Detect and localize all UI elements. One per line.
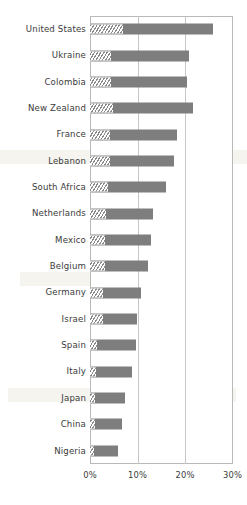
x-tick-label: 20% [176,470,195,480]
category-label: South Africa [0,183,86,192]
horizontal-bar-chart: United StatesUkraineColombiaNew ZealandF… [0,0,247,505]
bar-hatched-segment [90,208,106,219]
category-label: Ukraine [0,51,86,60]
bar-hatched-segment [90,287,103,298]
bar-hatched-segment [90,261,105,272]
bar-row: France [0,121,247,147]
bar-row: Spain [0,332,247,358]
bar-row: Ukraine [0,42,247,68]
bar-hatched-segment [90,129,110,140]
bar-hatched-segment [90,393,95,404]
category-label: Israel [0,315,86,324]
category-label: Germany [0,288,86,297]
bar-row: Lebanon [0,148,247,174]
bar-solid-segment [90,366,132,377]
bar-hatched-segment [90,76,111,87]
x-tick-label: 10% [128,470,147,480]
category-label: Japan [0,394,86,403]
x-axis: 0%10%20%30% [0,470,247,488]
bar-solid-segment [90,445,118,456]
bar-hatched-segment [90,314,103,325]
bar-row: Japan [0,385,247,411]
bar-row: Colombia [0,69,247,95]
category-label: Colombia [0,78,86,87]
bar-hatched-segment [90,103,113,114]
bar-solid-segment [90,393,125,404]
category-label: Belgium [0,262,86,271]
category-label: Lebanon [0,157,86,166]
bar-row: Nigeria [0,438,247,464]
bar-row: Italy [0,359,247,385]
bar-row: Belgium [0,253,247,279]
bar-hatched-segment [90,155,110,166]
category-label: Italy [0,367,86,376]
x-tick-label: 30% [223,470,242,480]
bar-hatched-segment [90,366,96,377]
category-label: Netherlands [0,209,86,218]
category-label: Spain [0,341,86,350]
bar-row: China [0,411,247,437]
x-tick-label: 0% [83,470,97,480]
bar-row: Israel [0,306,247,332]
category-label: United States [0,25,86,34]
category-label: New Zealand [0,104,86,113]
category-label: Mexico [0,236,86,245]
bar-rows-group: United StatesUkraineColombiaNew ZealandF… [0,16,247,464]
category-label: Nigeria [0,447,86,456]
bar-hatched-segment [90,419,95,430]
bar-row: Netherlands [0,200,247,226]
bar-row: Germany [0,280,247,306]
bar-hatched-segment [90,24,123,35]
bar-row: South Africa [0,174,247,200]
bar-hatched-segment [90,182,108,193]
bar-row: United States [0,16,247,42]
bar-hatched-segment [90,445,94,456]
bar-row: New Zealand [0,95,247,121]
category-label: China [0,420,86,429]
bar-hatched-segment [90,50,111,61]
bar-hatched-segment [90,234,105,245]
category-label: France [0,130,86,139]
bar-row: Mexico [0,227,247,253]
bar-hatched-segment [90,340,97,351]
